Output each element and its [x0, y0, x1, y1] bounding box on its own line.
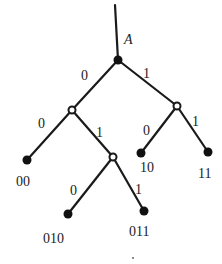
leaf-node-11 [204, 148, 213, 157]
leaf-node-011 [140, 207, 149, 216]
tree-edges [27, 5, 208, 214]
inner-node-0 [69, 107, 76, 114]
leaf-node-00 [23, 156, 32, 165]
edge-root-to-n0 [72, 60, 118, 110]
edge-label-root-left: 0 [81, 68, 88, 83]
inner-node-1 [174, 103, 181, 110]
root-label: A [123, 32, 133, 47]
tree-nodes [23, 56, 213, 219]
edge-label-n01-left: 0 [70, 183, 77, 198]
leaf-label-010: 010 [43, 231, 64, 246]
edge-top-to-root [115, 5, 118, 60]
root-node [114, 56, 123, 65]
edge-n0-to-leaf00 [27, 110, 72, 160]
edge-label-n0-left: 0 [38, 116, 45, 131]
edge-label-n0-right: 1 [96, 125, 103, 140]
inner-node-01 [110, 154, 117, 161]
leaf-label-11: 11 [198, 166, 211, 181]
leaf-label-011: 011 [129, 224, 149, 239]
edge-label-root-right: 1 [143, 66, 150, 81]
edge-label-n1-left: 0 [143, 123, 150, 138]
edge-label-n01-right: 1 [135, 182, 142, 197]
edge-n1-to-leaf11 [177, 106, 208, 152]
edge-n0-to-n01 [72, 110, 113, 157]
leaf-label-00: 00 [16, 174, 30, 189]
print-speck [132, 257, 134, 259]
leaf-label-10: 10 [140, 160, 154, 175]
leaf-node-010 [64, 210, 73, 219]
edge-label-n1-right: 1 [192, 114, 199, 129]
binary-code-tree-diagram: A 0 1 0 1 0 1 0 1 00 10 11 010 011 [0, 0, 222, 264]
leaf-node-10 [137, 149, 146, 158]
